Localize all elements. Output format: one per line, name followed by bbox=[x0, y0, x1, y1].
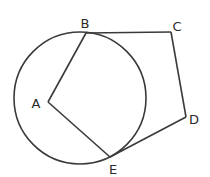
segment-bc bbox=[86, 32, 171, 33]
label-b: B bbox=[81, 16, 90, 31]
label-e: E bbox=[109, 162, 117, 177]
label-c: C bbox=[172, 19, 181, 34]
geometry-diagram: A B C D E bbox=[0, 0, 210, 177]
segment-ae bbox=[48, 102, 110, 157]
label-d: D bbox=[189, 112, 199, 127]
label-a: A bbox=[32, 96, 41, 111]
segment-ab bbox=[48, 33, 86, 102]
segment-de bbox=[110, 117, 186, 157]
segment-cd bbox=[171, 32, 186, 117]
